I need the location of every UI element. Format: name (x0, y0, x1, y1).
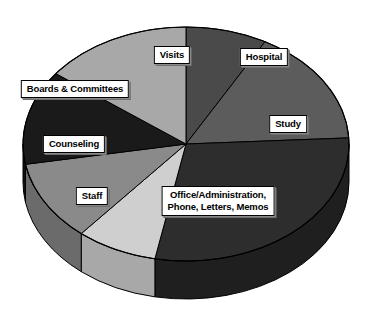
slice-label-boards-committees: Boards & Committees (21, 80, 129, 98)
slice-label-staff: Staff (76, 187, 108, 205)
slice-label-office-administration: Office/Administration, Phone, Letters, M… (162, 186, 275, 216)
slice-label-counseling: Counseling (43, 135, 105, 153)
pie-chart-figure: Visits Hospital Study Office/Administrat… (0, 0, 369, 310)
slice-label-office-line2: Phone, Letters, Memos (168, 201, 269, 213)
slice-label-hospital: Hospital (240, 48, 288, 66)
slice-label-office-line1: Office/Administration, (168, 189, 269, 201)
slice-label-visits: Visits (154, 46, 190, 64)
slice-label-study-text: Study (275, 118, 301, 129)
slice-label-hospital-text: Hospital (246, 51, 282, 62)
slice-label-counseling-text: Counseling (49, 138, 99, 149)
slice-label-visits-text: Visits (160, 49, 184, 60)
slice-label-boards-text: Boards & Committees (27, 83, 123, 94)
slice-label-study: Study (269, 115, 307, 133)
slice-label-staff-text: Staff (82, 190, 102, 201)
